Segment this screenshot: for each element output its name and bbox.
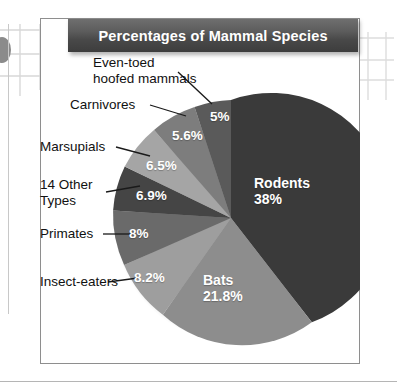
category-label-even-toed-hoofed-mammals: Even-toed hoofed mammals	[93, 55, 197, 86]
leader-line-carnivores	[150, 105, 186, 116]
category-label-even-toed-line2: hoofed mammals	[93, 71, 197, 86]
chart-title-bar: Percentages of Mammal Species	[68, 18, 358, 52]
category-label-primates: Primates	[40, 226, 93, 242]
category-label-even-toed-line1: Even-toed	[93, 55, 155, 70]
page-edge-artifact-right	[356, 22, 397, 100]
category-label-14-other-types: 14 Other Types	[40, 177, 93, 208]
category-label-14-other-line1: 14 Other	[40, 177, 93, 192]
category-label-14-other-line2: Types	[40, 193, 76, 208]
bottom-rule	[0, 381, 397, 382]
category-label-insect-eaters: Insect-eaters	[40, 274, 118, 290]
category-label-marsupials: Marsupials	[40, 139, 105, 155]
left-margin-rule	[8, 24, 9, 314]
pie-chart: Rodents 38% Bats 21.8% 5% 5.6% 6.5% 6.9%…	[40, 52, 360, 364]
page-title: Percentages of Mammal Species	[98, 28, 327, 44]
category-label-carnivores: Carnivores	[70, 97, 135, 113]
